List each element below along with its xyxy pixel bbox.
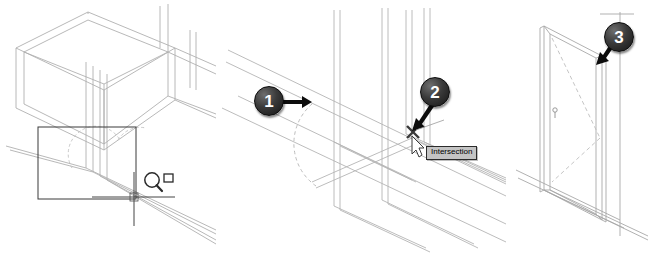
panel-zoom-window-selection [0, 0, 216, 256]
callout-badge-2-label: 2 [430, 84, 439, 101]
callout-1-arrow [282, 96, 312, 108]
callout-badge-2: 2 [420, 77, 450, 107]
door-leaf-dashed [552, 38, 600, 182]
callout-badge-3: 3 [604, 22, 634, 52]
wireframe-room-box [6, 4, 216, 244]
osnap-tooltip-label: Intersection [431, 147, 472, 156]
wireframe-wall-corner [222, 8, 506, 252]
door-handle-icon [553, 108, 557, 118]
door-swing-arc [294, 104, 316, 186]
osnap-tooltip: Intersection [426, 146, 477, 160]
callout-badge-3-label: 3 [614, 29, 623, 46]
callout-badge-1: 1 [254, 86, 284, 116]
tutorial-figure: 1 2 Intersection [0, 0, 648, 256]
panel-intersection-snap: 1 2 Intersection [216, 0, 506, 256]
zoom-window-icon[interactable] [142, 170, 176, 194]
callout-badge-1-label: 1 [264, 93, 273, 110]
panel-placed-door: 3 [500, 0, 648, 256]
